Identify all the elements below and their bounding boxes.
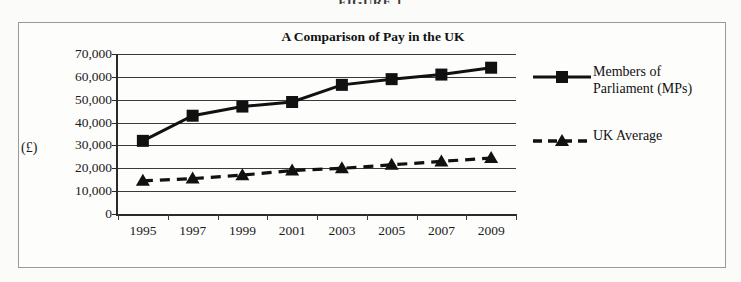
y-axis-tick-label: 30,000 <box>75 137 112 153</box>
y-axis-tick-label: 60,000 <box>75 69 112 85</box>
legend-label: Members ofParliament (MPs) <box>593 63 692 97</box>
data-point-marker-square <box>336 79 348 91</box>
x-axis-tick-mark <box>118 214 119 220</box>
y-axis-tick-label: 20,000 <box>75 160 112 176</box>
x-axis-tick-label: 2005 <box>378 223 405 239</box>
x-axis-tick-mark <box>516 214 517 220</box>
x-axis-tick-label: 2009 <box>478 223 505 239</box>
x-axis-tick-mark <box>168 214 169 220</box>
x-axis-tick-label: 2007 <box>428 223 455 239</box>
y-axis-tick-label: 0 <box>105 206 112 222</box>
x-axis-tick-mark <box>218 214 219 220</box>
x-axis-tick-label: 1999 <box>229 223 256 239</box>
x-axis-tick-label: 1997 <box>179 223 206 239</box>
x-axis-tick-label: 2001 <box>279 223 306 239</box>
chart-legend: Members ofParliament (MPs)UK Average <box>531 63 721 184</box>
legend-item[interactable]: UK Average <box>531 127 721 154</box>
legend-item[interactable]: Members ofParliament (MPs) <box>531 63 721 97</box>
figure-frame: A Comparison of Pay in the UK (£) 010,00… <box>18 22 726 268</box>
data-point-marker-square <box>236 101 248 113</box>
x-axis-tick-mark <box>267 214 268 220</box>
x-axis-tick-label: 2003 <box>328 223 355 239</box>
x-axis-tick-mark <box>466 214 467 220</box>
data-point-marker-square <box>286 96 298 108</box>
x-axis-tick-mark <box>417 214 418 220</box>
y-axis-tick-label: 50,000 <box>75 92 112 108</box>
data-point-marker-square <box>137 135 149 147</box>
data-point-marker-square <box>485 62 497 74</box>
x-axis-tick-label: 1995 <box>129 223 156 239</box>
data-point-marker-square <box>435 69 447 81</box>
data-point-marker-square <box>187 110 199 122</box>
figure-caption: FIGURE 1 <box>0 0 741 4</box>
data-point-marker-square <box>556 71 568 83</box>
x-axis-tick-mark <box>367 214 368 220</box>
data-point-marker-square <box>386 73 398 85</box>
y-axis-tick-label: 70,000 <box>75 46 112 62</box>
plot-area: 010,00020,00030,00040,00050,00060,00070,… <box>116 54 516 216</box>
legend-key-triangle-icon <box>531 128 593 154</box>
y-axis-tick-label: 40,000 <box>75 115 112 131</box>
y-axis-tick-label: 10,000 <box>75 183 112 199</box>
legend-label: UK Average <box>593 127 662 144</box>
series-layer <box>118 54 516 214</box>
x-axis-tick-mark <box>317 214 318 220</box>
page-root: FIGURE 1 A Comparison of Pay in the UK (… <box>0 0 741 282</box>
legend-key-square-icon <box>531 64 593 90</box>
